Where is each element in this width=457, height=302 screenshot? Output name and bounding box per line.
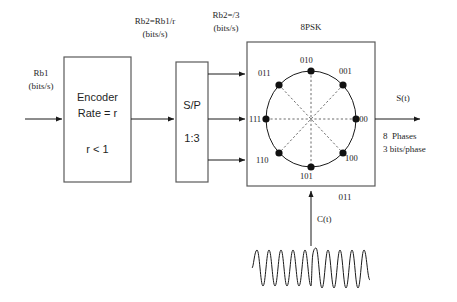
constellation-point-101 xyxy=(307,163,314,170)
sp-output-rate-label: Rb2=/3 xyxy=(200,10,252,21)
encoder-output-rate-label: Rb2=Rb1/r xyxy=(115,16,195,27)
serial-parallel-ratio-label: 1:3 xyxy=(176,131,208,146)
carrier-signal-label: C(t) xyxy=(317,214,349,225)
serial-parallel-name-label: S/P xyxy=(176,98,208,113)
diagram-canvas: Rb1 (bits/s) Encoder Rate = r r < 1 Rb2=… xyxy=(0,0,457,302)
constellation-label-001: 001 xyxy=(339,66,352,76)
constellation-point-001 xyxy=(339,81,346,88)
output-signal-label: S(t) xyxy=(383,93,423,104)
constellation-point-111 xyxy=(262,115,269,122)
constellation-label-000: 000 xyxy=(355,114,368,124)
constellation-point-010 xyxy=(307,67,314,74)
constellation-label-011: 011 xyxy=(258,68,270,78)
constellation-label-100: 100 xyxy=(345,153,358,163)
modulator-title-label: 8PSK xyxy=(283,22,339,33)
constellation-label-101: 101 xyxy=(300,171,313,181)
encoder-output-units-label: (bits/s) xyxy=(115,29,195,40)
output-phases-note: 8 Phases xyxy=(383,131,449,142)
encoder-constraint-label: r < 1 xyxy=(64,142,131,157)
encoder-rate-label: Rate = r xyxy=(64,106,131,121)
constellation-label-010: 010 xyxy=(300,55,313,65)
carrier-symbol-label: 011 xyxy=(332,192,358,203)
constellation-point-011 xyxy=(275,81,282,88)
output-bits-note: 3 bits/phase xyxy=(383,144,449,155)
constellation-label-111: 111 xyxy=(249,114,261,124)
sp-output-units-label: (bits/s) xyxy=(200,23,252,34)
carrier-waveform xyxy=(252,248,370,288)
constellation-label-110: 110 xyxy=(256,155,268,165)
input-rate-label: Rb1 xyxy=(16,68,66,79)
encoder-name-label: Encoder xyxy=(64,90,131,105)
serial-parallel-box xyxy=(176,62,208,182)
constellation-point-110 xyxy=(275,149,282,156)
input-units-label: (bits/s) xyxy=(16,81,66,92)
